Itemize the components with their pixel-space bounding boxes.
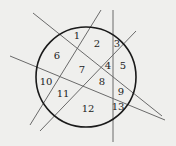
region-diagram: 12345678910111213 xyxy=(0,0,176,146)
region-label-5: 5 xyxy=(120,61,126,71)
region-label-7: 7 xyxy=(79,65,85,75)
region-label-1: 1 xyxy=(74,31,80,41)
dividing-lines xyxy=(10,10,165,142)
region-label-9: 9 xyxy=(118,87,124,97)
region-label-12: 12 xyxy=(82,104,95,114)
region-label-6: 6 xyxy=(54,51,60,61)
region-label-13: 13 xyxy=(112,102,125,112)
region-label-11: 11 xyxy=(57,89,70,99)
region-label-3: 3 xyxy=(114,39,120,49)
region-label-2: 2 xyxy=(94,39,100,49)
diagram-svg xyxy=(0,0,176,146)
region-label-4: 4 xyxy=(105,61,111,71)
region-label-10: 10 xyxy=(40,77,53,87)
region-label-8: 8 xyxy=(99,77,105,87)
